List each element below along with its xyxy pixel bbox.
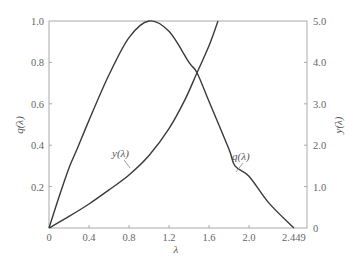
- chart: 00.40.81.21.62.02.449 0.20.40.60.81.0 01…: [0, 0, 357, 267]
- right-axis-label: y(λ): [332, 116, 345, 134]
- x-tick-label: 2.0: [242, 232, 255, 243]
- y-curve-leader: [124, 160, 130, 168]
- left-axis-label: q(λ): [13, 116, 26, 134]
- right-tick-label: 0: [313, 223, 318, 234]
- x-tick-label: 1.2: [162, 232, 175, 243]
- x-axis-label: λ: [173, 243, 179, 255]
- q-curve-label: q(λ): [232, 150, 250, 163]
- x-tick-label: 0: [46, 232, 51, 243]
- x-tick-label: 0.4: [82, 232, 96, 243]
- right-tick-label: 5.0: [313, 16, 326, 27]
- x-tick-label: 0.8: [122, 232, 135, 243]
- y-curve-label: y(λ): [111, 147, 129, 160]
- left-tick-label: 0.6: [31, 99, 44, 110]
- right-tick-label: 4.0: [313, 57, 326, 68]
- x-tick-label: 2.449: [282, 232, 306, 243]
- left-tick-label: 0.4: [31, 140, 45, 151]
- right-tick-label: 3.0: [313, 99, 326, 110]
- left-tick-label: 0.8: [31, 57, 44, 68]
- y-lambda-curve: [49, 21, 218, 228]
- left-tick-label: 1.0: [31, 16, 44, 27]
- left-tick-label: 0.2: [31, 182, 44, 193]
- right-tick-label: 2.0: [313, 140, 326, 151]
- x-tick-label: 1.6: [202, 232, 215, 243]
- right-tick-label: 1.0: [313, 182, 326, 193]
